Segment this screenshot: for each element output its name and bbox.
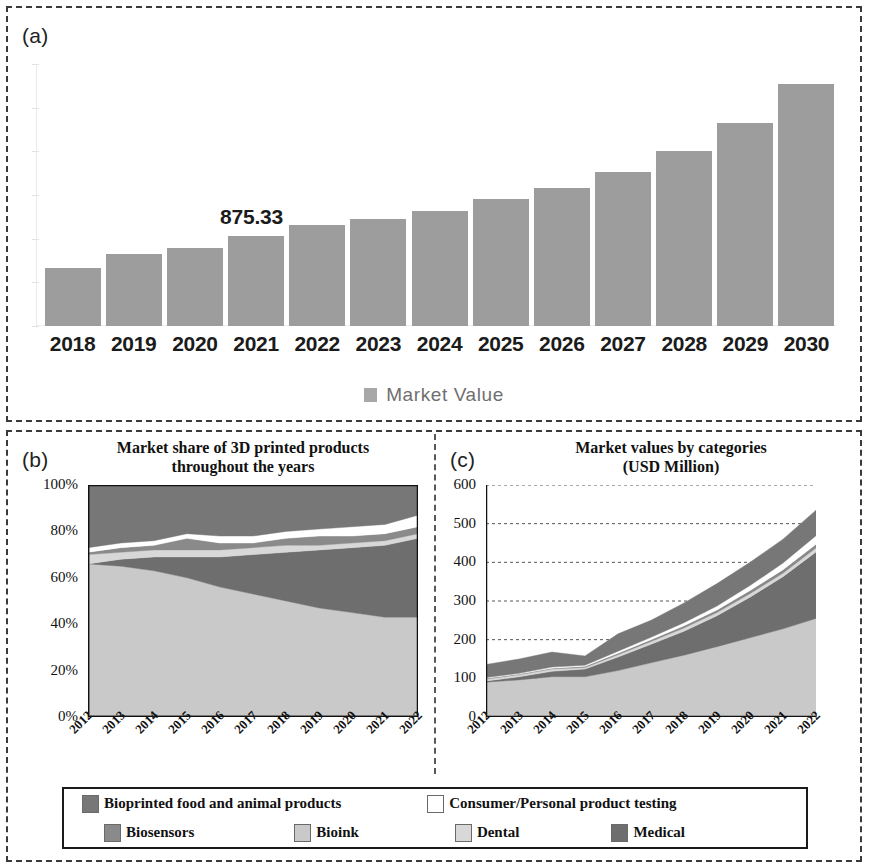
y-label-100: 100 <box>444 669 476 686</box>
panel-a-bars <box>42 64 837 326</box>
x-label-2024: 2024 <box>409 332 470 356</box>
legend-item-medical[interactable]: Medical <box>611 824 685 842</box>
bar-2018 <box>42 64 103 326</box>
legend-swatch <box>82 795 99 813</box>
y-label-80%: 80% <box>34 522 78 539</box>
x-label-2030: 2030 <box>776 332 837 356</box>
y-tick <box>32 108 39 109</box>
legend-label: Medical <box>633 824 685 841</box>
panel-b-area-chart <box>88 485 418 717</box>
legend-swatch <box>611 824 628 842</box>
panel-c-area-chart <box>486 485 816 717</box>
legend-swatch <box>427 795 444 813</box>
bar-2024 <box>409 64 470 326</box>
y-label-400: 400 <box>444 553 476 570</box>
bar-rect-2029 <box>717 123 773 326</box>
x-label-2019: 2019 <box>103 332 164 356</box>
bar-rect-2021 <box>228 236 284 326</box>
legend-row-1: Bioprinted food and animal productsConsu… <box>64 789 806 818</box>
legend-row-2: BiosensorsBioinkDentalMedical <box>64 818 806 847</box>
panel-a-legend-label: Market Value <box>386 384 504 406</box>
bar-2029 <box>715 64 776 326</box>
legend-item-biosensors[interactable]: Biosensors <box>104 824 194 842</box>
bar-rect-2022 <box>289 225 345 326</box>
x-label-2026: 2026 <box>531 332 592 356</box>
bar-rect-2028 <box>656 151 712 326</box>
bar-2022 <box>287 64 348 326</box>
y-label-60%: 60% <box>34 569 78 586</box>
market-value-swatch <box>364 388 377 402</box>
bar-rect-2026 <box>534 188 590 326</box>
legend-swatch <box>294 824 311 842</box>
x-label-2028: 2028 <box>654 332 715 356</box>
bar-rect-2030 <box>778 84 834 326</box>
x-label-2020: 2020 <box>164 332 225 356</box>
panel-b: (b) Market share of 3D printed productst… <box>6 430 434 770</box>
bar-rect-2018 <box>45 268 101 326</box>
bar-rect-2019 <box>106 254 162 326</box>
bar-2021 <box>225 64 286 326</box>
bar-2025 <box>470 64 531 326</box>
x-label-2027: 2027 <box>592 332 653 356</box>
y-label-600: 600 <box>444 476 476 493</box>
bar-rect-2024 <box>412 211 468 326</box>
panel-a-legend: Market Value <box>6 384 862 406</box>
panel-a-x-labels: 2018201920202021202220232024202520262027… <box>42 332 837 356</box>
bar-rect-2027 <box>595 172 651 326</box>
y-tick <box>32 282 39 283</box>
panel-b-title: Market share of 3D printed productsthrou… <box>6 438 434 476</box>
y-label-500: 500 <box>444 515 476 532</box>
y-label-40%: 40% <box>34 615 78 632</box>
y-label-100%: 100% <box>34 476 78 493</box>
panel-b-plot <box>88 485 418 717</box>
legend-item-bioink[interactable]: Bioink <box>294 824 359 842</box>
y-tick <box>32 151 39 152</box>
bar-2023 <box>348 64 409 326</box>
legend-item-consumer-personal-product-testing[interactable]: Consumer/Personal product testing <box>427 795 676 813</box>
legend-label: Biosensors <box>126 824 194 841</box>
y-label-200: 200 <box>444 631 476 648</box>
panel-c-title: Market values by categories(USD Million) <box>434 438 862 476</box>
legend-item-dental[interactable]: Dental <box>455 824 520 842</box>
panel-a-data-label: 875.33 <box>220 205 283 229</box>
legend-swatch <box>455 824 472 842</box>
y-tick <box>32 195 39 196</box>
legend-label: Consumer/Personal product testing <box>449 795 676 812</box>
bar-rect-2023 <box>350 219 406 326</box>
legend-swatch <box>104 824 121 842</box>
panel-c: (c) Market values by categories(USD Mill… <box>434 430 862 770</box>
y-label-300: 300 <box>444 592 476 609</box>
legend-label: Dental <box>477 824 520 841</box>
x-label-2018: 2018 <box>42 332 103 356</box>
bar-rect-2025 <box>473 199 529 326</box>
bar-2030 <box>776 64 837 326</box>
y-tick <box>32 239 39 240</box>
x-label-2022: 2022 <box>287 332 348 356</box>
y-label-20%: 20% <box>34 662 78 679</box>
panel-a: (a) 875.33 20182019202020212022202320242… <box>6 6 862 422</box>
bar-2026 <box>531 64 592 326</box>
bar-2020 <box>164 64 225 326</box>
legend-label: Bioink <box>316 824 359 841</box>
x-label-2021: 2021 <box>225 332 286 356</box>
bar-rect-2020 <box>167 248 223 326</box>
legend-item-bioprinted-food-and-animal-products[interactable]: Bioprinted food and animal products <box>82 795 341 813</box>
x-label-2029: 2029 <box>715 332 776 356</box>
panel-a-label: (a) <box>22 24 49 48</box>
bar-2027 <box>592 64 653 326</box>
legend-label: Bioprinted food and animal products <box>104 795 341 812</box>
bar-2019 <box>103 64 164 326</box>
y-tick <box>32 64 39 65</box>
shared-legend: Bioprinted food and animal productsConsu… <box>62 787 808 849</box>
bar-2028 <box>654 64 715 326</box>
y-tick <box>32 326 39 327</box>
x-label-2025: 2025 <box>470 332 531 356</box>
x-label-2023: 2023 <box>348 332 409 356</box>
panel-c-plot <box>486 485 816 717</box>
